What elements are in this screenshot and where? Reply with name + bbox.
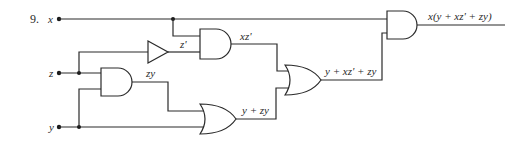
wire-y-to-and3 (79, 89, 101, 127)
label-z-prime: z' (179, 38, 187, 50)
and-gate-3 (101, 68, 132, 96)
wire-and1-to-or2 (231, 44, 290, 71)
input-label-z: z (48, 67, 54, 79)
label-zy: zy (145, 67, 155, 79)
wire-x-to-and1 (173, 19, 200, 36)
label-xz-prime: xz' (239, 30, 252, 42)
input-label-y: y (48, 121, 54, 133)
or-gate-2 (285, 65, 321, 95)
problem-number: 9. (30, 12, 39, 26)
logic-circuit-diagram: 9. x z y z' xz' zy y + zy y + xz' + zy (0, 0, 531, 159)
not-gate (148, 41, 168, 63)
label-final-output: x(y + xz' + zy) (427, 10, 492, 23)
wire-and3-to-or1 (132, 82, 207, 111)
or-gate-1 (200, 104, 236, 134)
and-gate-2 (387, 11, 417, 39)
label-y-plus-xz-prime-plus-zy: y + xz' + zy (324, 65, 377, 77)
input-label-x: x (47, 13, 53, 25)
and-gate-1 (200, 29, 231, 59)
label-y-plus-zy: y + zy (241, 104, 269, 116)
